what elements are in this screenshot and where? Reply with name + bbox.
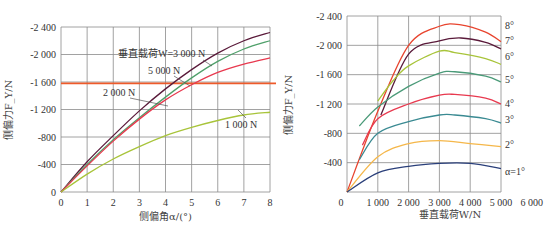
x-tick-label: 3 000	[428, 197, 451, 208]
left-chart: 0123456780-400-800-1 200-1 600-2 000-2 4…	[2, 22, 276, 223]
x-tick-label: 2	[111, 197, 116, 208]
chart-canvas: 0123456780-400-800-1 200-1 600-2 000-2 4…	[0, 0, 546, 235]
x-tick-label: 4	[163, 197, 168, 208]
x-tick-label: 6	[215, 197, 220, 208]
y-axis-label: 侧偏力F_Y/N	[2, 79, 15, 140]
series-line	[359, 114, 501, 159]
series-line	[362, 94, 501, 145]
series-annotation: 2°	[505, 139, 514, 150]
series-annotation: 5 000 N	[148, 65, 180, 76]
x-axis-label: 侧偏角α/(°)	[139, 210, 192, 222]
y-tick-label: -800	[38, 132, 56, 143]
series-annotation: 3°	[505, 114, 514, 125]
series-line	[347, 24, 501, 192]
y-tick-label: -2 400	[316, 11, 342, 22]
x-tick-label: 2 000	[397, 197, 420, 208]
series-line	[347, 163, 501, 192]
x-tick-label: 8	[268, 197, 273, 208]
series-annotation: 7°	[505, 35, 514, 46]
leader-line	[203, 60, 212, 66]
series-line	[347, 141, 501, 192]
x-tick-label: 7	[241, 197, 246, 208]
y-tick-label: -2 000	[30, 49, 56, 60]
y-tick-label: -2 000	[316, 40, 342, 51]
x-tick-label: 6 000	[521, 197, 544, 208]
y-tick-label: 0	[51, 187, 56, 198]
y-tick-label: -1 600	[30, 77, 56, 88]
y-tick-label: -1 600	[316, 69, 342, 80]
y-tick-label: -400	[324, 157, 342, 168]
series-annotation: 5°	[505, 74, 514, 85]
figure: 0123456780-400-800-1 200-1 600-2 000-2 4…	[0, 0, 546, 235]
x-tick-label: 1 000	[367, 197, 390, 208]
series-line	[381, 38, 501, 115]
series-annotation: 1 000 N	[225, 119, 257, 130]
x-tick-label: 4 000	[459, 197, 482, 208]
right-chart: 01 0002 0003 0004 0005 0006 000-400-800-…	[282, 11, 543, 221]
series-annotation: 6°	[505, 51, 514, 62]
y-tick-label: -1 200	[316, 99, 342, 110]
leader-line	[238, 110, 246, 118]
y-tick-label: -400	[38, 159, 56, 170]
series-annotation: α=1°	[505, 166, 525, 177]
y-tick-label: -800	[324, 128, 342, 139]
x-tick-label: 1	[85, 197, 90, 208]
y-axis-label: 侧偏力F_Y/N	[282, 74, 295, 135]
series-annotation: 2 000 N	[103, 87, 135, 98]
y-tick-label: -1 200	[30, 104, 56, 115]
x-axis-label: 垂直载荷W/N	[419, 208, 482, 220]
x-tick-label: 5 000	[490, 197, 513, 208]
x-tick-label: 5	[189, 197, 194, 208]
x-tick-label: 3	[137, 197, 142, 208]
series-annotation: 8°	[505, 20, 514, 31]
series-annotation: 4°	[505, 98, 514, 109]
x-tick-label: 0	[59, 197, 64, 208]
x-tick-label: 0	[339, 197, 344, 208]
y-tick-label: -2 400	[30, 22, 56, 33]
series-annotation: 垂直载荷W=3 000 N	[118, 47, 205, 59]
